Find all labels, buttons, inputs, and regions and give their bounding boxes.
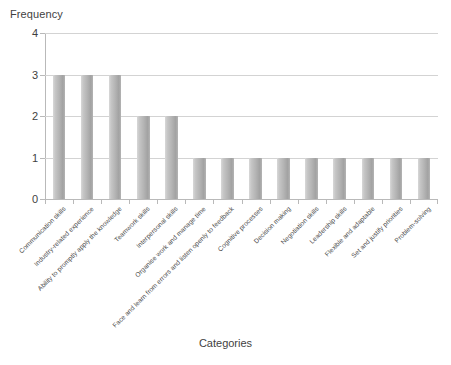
y-tick-label-1: 1 xyxy=(4,152,38,164)
plot-area xyxy=(45,33,438,199)
x-tick-mark xyxy=(101,199,102,204)
x-tick-mark xyxy=(326,199,327,204)
bar-chart: Frequency 01234 Communication skillsIndu… xyxy=(0,0,451,365)
y-tick-mark-0 xyxy=(40,199,45,200)
bar xyxy=(362,158,375,200)
category-label: Set and justify priorities xyxy=(350,205,404,259)
bar xyxy=(109,75,122,200)
x-tick-mark xyxy=(157,199,158,204)
y-tick-label-0: 0 xyxy=(4,193,38,205)
y-tick-mark-4 xyxy=(40,33,45,34)
bars-layer xyxy=(45,33,438,199)
category-label: Communication skills xyxy=(18,205,67,254)
bar xyxy=(249,158,262,200)
x-axis-category-labels: Communication skillsIndustry-related exp… xyxy=(45,205,445,330)
x-tick-mark xyxy=(213,199,214,204)
bar xyxy=(390,158,403,200)
x-tick-mark xyxy=(354,199,355,204)
y-tick-label-4: 4 xyxy=(4,27,38,39)
bar xyxy=(81,75,94,200)
x-axis-tick-marks xyxy=(45,199,438,204)
y-tick-mark-2 xyxy=(40,116,45,117)
x-tick-mark xyxy=(73,199,74,204)
bar xyxy=(221,158,234,200)
x-tick-mark xyxy=(45,199,46,204)
y-axis-tick-labels: 01234 xyxy=(0,33,38,199)
x-tick-mark xyxy=(437,199,438,204)
y-tick-mark-3 xyxy=(40,75,45,76)
x-tick-mark xyxy=(185,199,186,204)
bar xyxy=(418,158,431,200)
x-tick-mark xyxy=(270,199,271,204)
y-tick-label-3: 3 xyxy=(4,69,38,81)
y-tick-mark-1 xyxy=(40,158,45,159)
x-tick-mark xyxy=(382,199,383,204)
bar xyxy=(137,116,150,199)
x-tick-mark xyxy=(298,199,299,204)
bar xyxy=(333,158,346,200)
y-tick-label-2: 2 xyxy=(4,110,38,122)
bar xyxy=(165,116,178,199)
x-axis-title: Categories xyxy=(0,337,451,349)
x-tick-mark xyxy=(242,199,243,204)
bar xyxy=(193,158,206,200)
x-tick-mark xyxy=(410,199,411,204)
y-axis-title: Frequency xyxy=(10,8,63,20)
bar xyxy=(53,75,66,200)
x-tick-mark xyxy=(129,199,130,204)
bar xyxy=(305,158,318,200)
category-label: Flexible and adaptable xyxy=(323,205,376,258)
bar xyxy=(277,158,290,200)
